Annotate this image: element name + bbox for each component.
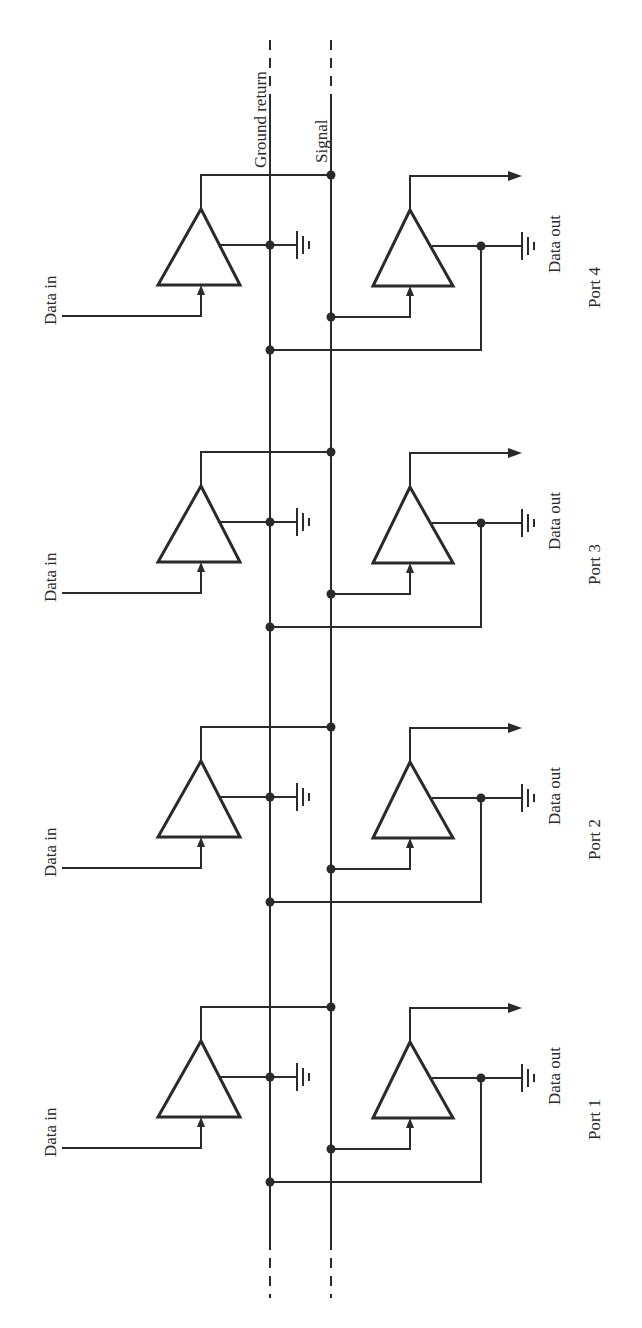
output-arrow-icon <box>508 1003 522 1013</box>
port-label: Port 1 <box>585 1099 604 1140</box>
ground-symbol-icon <box>297 783 309 811</box>
data-out-label: Data out <box>545 492 564 550</box>
receiver-amplifier <box>266 448 535 632</box>
receiver-amplifier <box>266 723 535 907</box>
data-out-label: Data out <box>545 1047 564 1105</box>
port-3: Data inData outPort 3 <box>41 448 604 632</box>
port-label: Port 3 <box>585 544 604 585</box>
data-out-label: Data out <box>545 215 564 273</box>
receiver-amplifier <box>266 171 535 355</box>
data-in-label: Data in <box>41 1107 60 1157</box>
data-in-label: Data in <box>41 275 60 325</box>
bus-diagram: Ground return Signal Data inData outPort… <box>0 0 642 1328</box>
ground-symbol-icon <box>522 509 534 537</box>
ground-return-label: Ground return <box>251 71 270 168</box>
ground-symbol-icon <box>522 784 534 812</box>
ground-symbol-icon <box>522 232 534 260</box>
ground-symbol-icon <box>522 1064 534 1092</box>
output-arrow-icon <box>508 171 522 181</box>
port-2: Data inData outPort 2 <box>41 723 604 907</box>
data-in-label: Data in <box>41 552 60 602</box>
port-1: Data inData outPort 1 <box>41 1003 604 1187</box>
transmitter-amplifier <box>62 1003 336 1149</box>
signal-label: Signal <box>312 119 331 163</box>
output-arrow-icon <box>508 448 522 458</box>
data-in-label: Data in <box>41 827 60 877</box>
transmitter-amplifier <box>62 171 336 317</box>
port-4: Data inData outPort 4 <box>41 171 604 355</box>
ground-symbol-icon <box>297 1063 309 1091</box>
transmitter-amplifier <box>62 448 336 594</box>
output-arrow-icon <box>508 723 522 733</box>
transmitter-amplifier <box>62 723 336 869</box>
port-label: Port 4 <box>585 266 604 308</box>
data-out-label: Data out <box>545 767 564 825</box>
ground-symbol-icon <box>297 508 309 536</box>
ground-symbol-icon <box>297 231 309 259</box>
port-label: Port 2 <box>585 819 604 860</box>
receiver-amplifier <box>266 1003 535 1187</box>
